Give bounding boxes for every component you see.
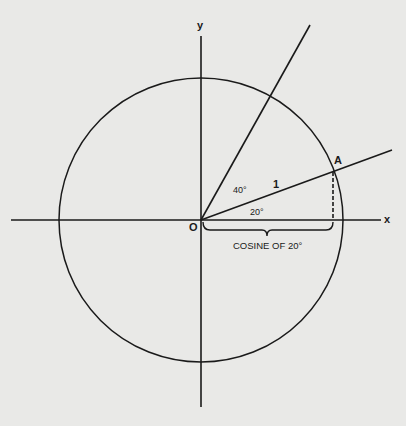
cosine-label: COSINE OF 20° [233,240,302,251]
origin-label: O [189,221,198,233]
ray-20-degrees [201,150,392,220]
y-axis-label: y [197,19,204,31]
radius-label: 1 [273,178,279,190]
angle-20-label: 20° [250,207,264,217]
point-a-label: A [334,154,342,166]
x-axis-label: x [384,213,391,225]
ray-60-degrees [201,25,310,220]
cosine-brace [203,222,333,236]
angle-40-label: 40° [233,185,247,195]
unit-circle-diagram: y x O A 1 40° 20° COSINE OF 20° [0,0,406,426]
